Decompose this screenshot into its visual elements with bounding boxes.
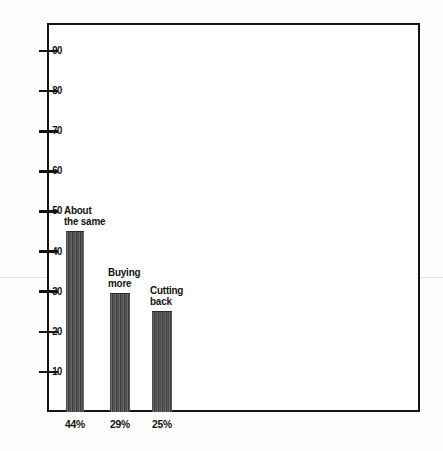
bar-annotation-line: About — [64, 205, 105, 217]
bar-annotation: Cuttingback — [150, 285, 183, 308]
y-axis-tick-label: 60 — [40, 164, 62, 176]
y-axis-tick-label: 40 — [40, 245, 62, 257]
x-axis-data-label: 44% — [55, 418, 95, 430]
y-axis-tick-label: 80 — [40, 84, 62, 96]
bar-annotation-line: Cutting — [150, 285, 183, 297]
bar-annotation: Aboutthe same — [64, 205, 105, 228]
bar-chart: 102030405060708090 Aboutthe sameBuyingmo… — [0, 0, 443, 451]
bar-annotation-line: more — [108, 278, 140, 290]
bar-annotation-line: the same — [64, 216, 105, 228]
y-axis-tick-label: 30 — [40, 285, 62, 297]
bar-annotation-line: Buying — [108, 267, 140, 279]
bar-annotation: Buyingmore — [108, 267, 140, 290]
bar-annotation-line: back — [150, 296, 183, 308]
y-axis-tick-label: 10 — [40, 365, 62, 377]
x-axis-data-label: 25% — [142, 418, 182, 430]
y-axis-tick-label: 50 — [40, 204, 62, 216]
x-axis-data-label: 29% — [100, 418, 140, 430]
y-axis-tick-label: 20 — [40, 325, 62, 337]
y-axis-tick-label: 70 — [40, 124, 62, 136]
y-axis-tick-label: 90 — [40, 44, 62, 56]
